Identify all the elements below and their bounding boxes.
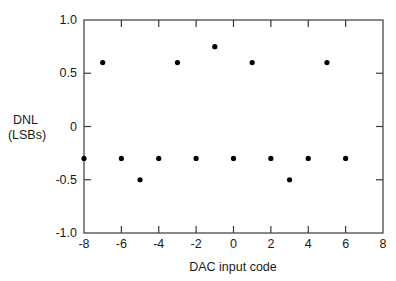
y-tick-label: 0 — [70, 120, 77, 134]
plot-frame — [84, 20, 383, 233]
data-point — [287, 177, 292, 182]
data-points — [81, 44, 348, 182]
data-point — [231, 156, 236, 161]
y-tick-label: -0.5 — [55, 173, 77, 187]
x-tick-label: 0 — [230, 237, 237, 251]
x-tick-label: -4 — [153, 237, 164, 251]
data-point — [175, 60, 180, 65]
data-point — [137, 177, 142, 182]
y-tick-label: -1.0 — [55, 226, 77, 240]
x-tick-label: 4 — [305, 237, 312, 251]
x-tick-label: 2 — [267, 237, 274, 251]
data-point — [100, 60, 105, 65]
x-tick-label: -2 — [191, 237, 202, 251]
data-point — [81, 156, 86, 161]
data-point — [250, 60, 255, 65]
data-point — [268, 156, 273, 161]
data-point — [212, 44, 217, 49]
y-axis-title-line1: DNL — [13, 113, 38, 127]
y-axis-ticks: 1.00.50-0.5-1.0 — [55, 13, 383, 240]
y-tick-label: 0.5 — [60, 66, 77, 80]
y-tick-label: 1.0 — [60, 13, 77, 27]
y-axis-title-line2: (LSBs) — [8, 128, 46, 142]
x-tick-label: 6 — [342, 237, 349, 251]
data-point — [156, 156, 161, 161]
x-tick-label: -8 — [78, 237, 89, 251]
x-tick-label: 8 — [380, 237, 387, 251]
data-point — [324, 60, 329, 65]
data-point — [343, 156, 348, 161]
data-point — [194, 156, 199, 161]
x-tick-label: -6 — [116, 237, 127, 251]
data-point — [306, 156, 311, 161]
dnl-scatter-chart: -8-6-4-202468 1.00.50-0.5-1.0 DAC input … — [0, 0, 396, 281]
x-axis-ticks: -8-6-4-202468 — [78, 20, 386, 251]
plot-border — [84, 20, 383, 233]
data-point — [119, 156, 124, 161]
x-axis-title: DAC input code — [189, 260, 277, 274]
y-axis-title: DNL (LSBs) — [8, 113, 46, 142]
